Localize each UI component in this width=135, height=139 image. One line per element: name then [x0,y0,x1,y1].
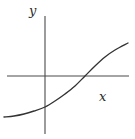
y-axis-label: y [29,4,36,17]
x-axis-label: x [99,90,106,103]
graph-figure: y x [0,0,135,139]
coordinate-plot [0,0,135,139]
function-curve [4,43,128,117]
